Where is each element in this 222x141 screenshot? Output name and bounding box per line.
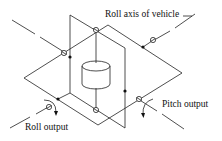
bearing-icon xyxy=(46,104,51,109)
bearing-icon xyxy=(136,96,141,101)
gimbal-diagram: Roll axis of vehicle Pitch output Roll o… xyxy=(0,0,222,141)
pitch-axis-line xyxy=(10,14,195,128)
horizontal-gimbal-plane xyxy=(24,25,182,125)
pitch-output-arrow-icon xyxy=(143,99,153,115)
pivot-dot-icon xyxy=(68,55,71,58)
pivot-dot-icon xyxy=(56,97,59,100)
pitch-output-label: Pitch output xyxy=(162,100,208,110)
bearing-icon xyxy=(61,50,66,55)
bearing-icon xyxy=(93,27,98,32)
bearing-icon xyxy=(93,107,98,112)
diagram-drawing xyxy=(0,0,222,141)
rotor-cylinder-icon xyxy=(82,61,110,89)
pivot-dot-icon xyxy=(123,89,126,92)
pivot-dot-icon xyxy=(141,45,144,48)
roll-axis-label: Roll axis of vehicle xyxy=(105,10,179,20)
roll-output-label: Roll output xyxy=(25,123,68,133)
bearing-icon xyxy=(150,37,155,42)
